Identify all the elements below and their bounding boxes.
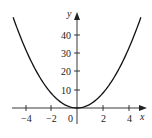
y-axis-label: y [66, 8, 72, 19]
y-tick-label: 30 [61, 48, 71, 59]
x-axis-label: x [139, 111, 145, 122]
x-tick-label: 4 [127, 113, 132, 124]
x-tick-label: 2 [101, 113, 106, 124]
y-tick-label: 20 [61, 66, 71, 77]
x-tick-label: −4 [21, 113, 32, 124]
y-tick-label: 10 [61, 85, 71, 96]
x-tick-label: −2 [46, 113, 57, 124]
parabola-chart: −4 −2 0 2 4 10 20 30 40 x y [0, 0, 152, 138]
y-axis-arrow-icon [74, 12, 80, 20]
x-tick-label: 0 [68, 113, 73, 124]
y-tick-label: 40 [61, 30, 71, 41]
